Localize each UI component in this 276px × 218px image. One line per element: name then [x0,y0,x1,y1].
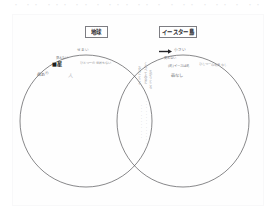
venn-diagram-canvas [0,0,276,218]
annotation-left-1: せまい [77,49,89,53]
annotation-overlap-2: おなじところ [137,66,140,85]
venn-label-box-left[interactable]: 地球 [85,26,108,38]
annotation-right-5: 森なし [171,74,183,79]
arrow-marker [159,49,172,53]
annotation-overlap-4: ・・・・・・・・・・・・・・ [145,100,148,145]
annotation-overlap-3: ちがうところ [148,70,151,89]
annotation-overlap-1: くらべてみると [143,62,147,84]
annotation-right-3: (島)イースは島 [168,65,190,69]
annotation-left-6: 人 [67,73,73,79]
annotation-right-2: 見えない [164,57,177,61]
annotation-left-4: ■星 [52,62,62,67]
worksheet-page: ・ ・・ ・・・ ・・ ・ ・・・ ・・ ・ ・ ・・ ・ ・・ ・ ・・ 地球… [0,0,276,218]
venn-label-box-right[interactable]: イースター島 [159,26,197,38]
annotation-left-2: 見えない [56,56,69,60]
annotation-right-1: 小さい [174,48,186,52]
annotation-left-5: 森あり [37,72,50,77]
annotation-overlap-5: ・・・・・・・・・・・ [140,104,143,139]
venn-label-right-text: イースター島 [162,27,194,36]
annotation-left-3: ひとつ一の世界もない [80,61,111,65]
venn-label-left-text: 地球 [91,27,102,36]
